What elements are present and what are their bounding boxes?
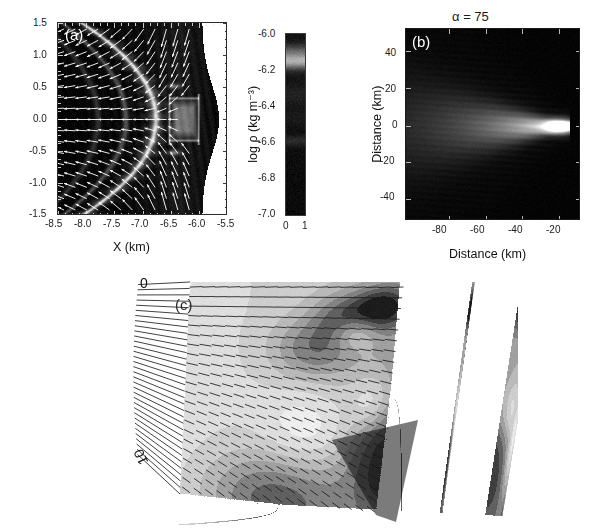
- panel-b-intensity-map: [406, 29, 580, 220]
- panel-b-yaxis-title: Distance (km): [371, 64, 384, 184]
- panel-a-ytick-5: -1.0: [29, 178, 46, 188]
- colorbar-bottom-tick-1: 1: [302, 221, 308, 231]
- panel-a-ytick-3: 0.0: [33, 114, 47, 124]
- colorbar-tick-2: -6.4: [258, 101, 275, 111]
- panel-b-ytick-0: 40: [385, 48, 396, 58]
- panel-a-xaxis-title: X (km): [113, 241, 150, 254]
- colorbar-tick-3: -6.6: [258, 137, 275, 147]
- panel-b-ytick-4: -40: [380, 192, 394, 202]
- colorbar-tick-5: -7.0: [258, 209, 275, 219]
- panel-a-xtick-6: -5.5: [217, 219, 234, 229]
- colorbar: [285, 33, 306, 216]
- panel-a-xtick-1: -8.0: [74, 219, 91, 229]
- panel-b-ytick-1: 20: [385, 84, 396, 94]
- panel-a-xtick-4: -6.5: [160, 219, 177, 229]
- panel-b-title: α = 75: [452, 10, 489, 23]
- panel-a-ytick-6: -1.5: [29, 209, 46, 219]
- panel-b-ytick-2: 0: [392, 120, 398, 130]
- panel-a-ytick-1: 1.0: [33, 50, 47, 60]
- colorbar-bottom-tick-0: 0: [283, 221, 289, 231]
- panel-a-xtick-2: -7.5: [103, 219, 120, 229]
- panel-b-xtick-0: -80: [432, 225, 446, 235]
- panel-a-xtick-3: -7.0: [131, 219, 148, 229]
- panel-a-xtick-0: -8.5: [45, 219, 62, 229]
- panel-a-ytick-4: -0.5: [29, 146, 46, 156]
- panel-a-xtick-5: -6.0: [188, 219, 205, 229]
- panel-c-id-label: (c): [175, 296, 193, 313]
- colorbar-tick-4: -6.8: [258, 173, 275, 183]
- colorbar-gradient: [286, 34, 306, 216]
- panel-b-xtick-3: -20: [546, 225, 560, 235]
- panel-a-plot-area: [57, 22, 227, 215]
- figure-root: (a) 1.5 1.0 0.5 0.0 -0.5 -1.0 -1.5 -8.5 …: [0, 0, 609, 530]
- panel-b-xtick-2: -40: [508, 225, 522, 235]
- panel-a-ytick-0: 1.5: [33, 18, 47, 28]
- panel-b-xtick-1: -60: [470, 225, 484, 235]
- colorbar-title: log ρ (kg m⁻³): [247, 69, 260, 179]
- panel-b-id-label: (b): [412, 33, 430, 50]
- colorbar-tick-0: -6.0: [258, 29, 275, 39]
- panel-a-ytick-2: 0.5: [33, 82, 47, 92]
- panel-b-plot-area: [405, 28, 580, 220]
- panel-b-xaxis-title: Distance (km): [449, 248, 526, 261]
- panel-a-density-map: [58, 23, 227, 215]
- colorbar-tick-1: -6.2: [258, 65, 275, 75]
- panel-c-axis-label-0: 0: [140, 275, 148, 291]
- panel-a-id-label: (a): [65, 26, 83, 43]
